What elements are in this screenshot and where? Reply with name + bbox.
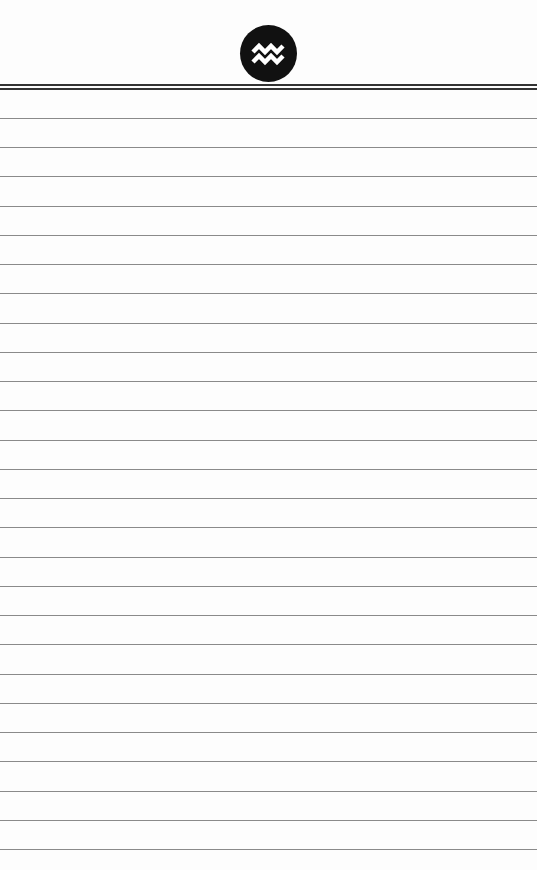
- ruled-line: [0, 527, 537, 528]
- ruled-line: [0, 498, 537, 499]
- ruled-line: [0, 147, 537, 148]
- ruled-line: [0, 644, 537, 645]
- ruled-line: [0, 586, 537, 587]
- ruled-line: [0, 557, 537, 558]
- ruled-line: [0, 849, 537, 850]
- ruled-line: [0, 761, 537, 762]
- ruled-line: [0, 615, 537, 616]
- ruled-line: [0, 820, 537, 821]
- ruled-line: [0, 703, 537, 704]
- ruled-line: [0, 732, 537, 733]
- ruled-line: [0, 352, 537, 353]
- ruled-line: [0, 118, 537, 119]
- ruled-line: [0, 323, 537, 324]
- ruled-line: [0, 176, 537, 177]
- aquarius-icon: [240, 25, 297, 82]
- ruled-line: [0, 206, 537, 207]
- ruled-line: [0, 674, 537, 675]
- ruled-line: [0, 791, 537, 792]
- ruled-line: [0, 264, 537, 265]
- ruled-line: [0, 440, 537, 441]
- ruled-line: [0, 235, 537, 236]
- ruled-line: [0, 293, 537, 294]
- ruled-line: [0, 410, 537, 411]
- ruled-line: [0, 469, 537, 470]
- header-rule: [0, 88, 537, 90]
- ruled-line: [0, 381, 537, 382]
- header-rule: [0, 84, 537, 86]
